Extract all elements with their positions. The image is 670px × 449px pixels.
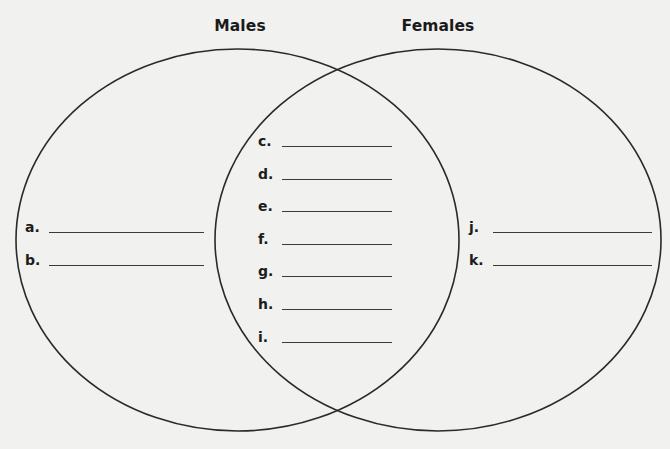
both-item-i: i. [258, 324, 392, 344]
answer-blank-d[interactable] [282, 165, 392, 180]
answer-blank-h[interactable] [282, 295, 392, 310]
females-item-j: j. [469, 214, 652, 234]
males-item-b: b. [25, 247, 204, 267]
females-item-k: k. [469, 247, 652, 267]
item-label: f. [258, 232, 282, 246]
item-label: i. [258, 330, 282, 344]
item-label: b. [25, 253, 49, 267]
answer-blank-i[interactable] [282, 328, 392, 343]
males-circle [16, 49, 459, 431]
item-label: d. [258, 167, 282, 181]
item-label: e. [258, 199, 282, 213]
answer-blank-j[interactable] [493, 218, 652, 233]
answer-blank-e[interactable] [282, 197, 392, 212]
both-item-f: f. [258, 226, 392, 246]
males-item-a: a. [25, 214, 204, 234]
venn-diagram-worksheet: Males Females a. b. c. d. e. f. g. h. i.… [0, 0, 670, 449]
both-item-c: c. [258, 128, 392, 148]
males-title: Males [214, 17, 265, 35]
item-label: c. [258, 134, 282, 148]
females-title: Females [402, 17, 475, 35]
item-label: k. [469, 253, 493, 267]
answer-blank-c[interactable] [282, 132, 392, 147]
item-label: g. [258, 264, 282, 278]
answer-blank-f[interactable] [282, 230, 392, 245]
answer-blank-b[interactable] [49, 251, 204, 266]
both-item-d: d. [258, 161, 392, 181]
answer-blank-g[interactable] [282, 262, 392, 277]
item-label: a. [25, 220, 49, 234]
item-label: h. [258, 297, 282, 311]
both-item-g: g. [258, 258, 392, 278]
item-label: j. [469, 220, 493, 234]
both-item-e: e. [258, 193, 392, 213]
both-item-h: h. [258, 291, 392, 311]
answer-blank-k[interactable] [493, 251, 652, 266]
answer-blank-a[interactable] [49, 218, 204, 233]
